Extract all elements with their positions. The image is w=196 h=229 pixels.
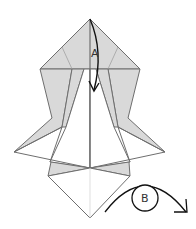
arrow-a-label: A [91,47,99,60]
model-bottom-point [48,168,130,218]
origami-diagram: A B [0,0,196,229]
arrow-b-label: B [141,192,149,205]
